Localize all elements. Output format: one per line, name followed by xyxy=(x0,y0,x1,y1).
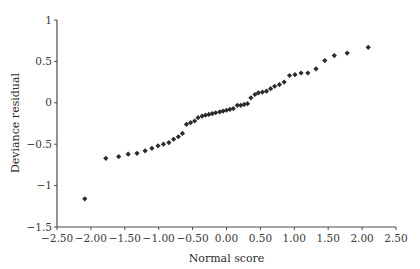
data-point-diamond xyxy=(277,82,282,87)
y-tick-label: 0.5 xyxy=(35,55,52,67)
y-axis: 10.50−0.5−1−1.5 xyxy=(27,14,58,233)
y-tick-label: 1 xyxy=(45,14,52,26)
y-tick-label: −1 xyxy=(37,179,52,191)
data-point-diamond xyxy=(116,154,121,159)
data-point-diamond xyxy=(134,151,139,156)
x-tick-label: 1.50 xyxy=(317,232,340,244)
x-tick-label: 2.50 xyxy=(384,232,407,244)
data-point-diamond xyxy=(103,156,108,161)
x-tick-label: 0.00 xyxy=(215,232,238,244)
data-point-diamond xyxy=(155,143,160,148)
data-point-diamond xyxy=(292,72,297,77)
x-tick-label: 2.00 xyxy=(350,232,373,244)
data-point-diamond xyxy=(166,140,171,145)
data-point-diamond xyxy=(126,152,131,157)
y-tick-label: −0.5 xyxy=(27,138,53,150)
data-point-diamond xyxy=(161,142,166,147)
x-tick-label: −0.50 xyxy=(177,232,209,244)
data-point-diamond xyxy=(180,131,185,136)
x-tick-label: 0.50 xyxy=(249,232,272,244)
x-axis: −2.50−2.00−1.50−1.00−0.500.000.501.001.5… xyxy=(41,227,408,244)
data-point-diamond xyxy=(332,53,337,58)
y-axis-title: Deviance residual xyxy=(9,73,22,173)
data-point-diamond xyxy=(366,45,371,50)
data-point-diamond xyxy=(287,73,292,78)
data-point-diamond xyxy=(149,146,154,151)
scatter-chart: 10.50−0.5−1−1.5 −2.50−2.00−1.50−1.00−0.5… xyxy=(0,0,420,269)
data-point-diamond xyxy=(272,84,277,89)
data-point-diamond xyxy=(176,134,181,139)
x-axis-title: Normal score xyxy=(189,252,265,265)
data-point-diamond xyxy=(264,89,269,94)
data-point-diamond xyxy=(282,80,287,85)
x-tick-label: −1.00 xyxy=(143,232,175,244)
data-point-diamond xyxy=(171,137,176,142)
data-point-diamond xyxy=(313,66,318,71)
x-tick-label: −1.50 xyxy=(109,232,141,244)
x-tick-label: −2.50 xyxy=(41,232,73,244)
data-point-diamond xyxy=(248,95,253,100)
x-tick-label: 1.00 xyxy=(283,232,306,244)
data-point-diamond xyxy=(82,196,87,201)
data-point-diamond xyxy=(345,51,350,56)
data-point-diamond xyxy=(298,70,303,75)
data-point-diamond xyxy=(322,58,327,63)
x-tick-label: −2.00 xyxy=(75,232,107,244)
data-points xyxy=(82,45,371,202)
data-point-diamond xyxy=(305,70,310,75)
data-point-diamond xyxy=(143,148,148,153)
y-tick-label: −1.5 xyxy=(27,221,53,233)
data-point-diamond xyxy=(260,89,265,94)
y-tick-label: 0 xyxy=(45,96,52,108)
data-point-diamond xyxy=(268,86,273,91)
